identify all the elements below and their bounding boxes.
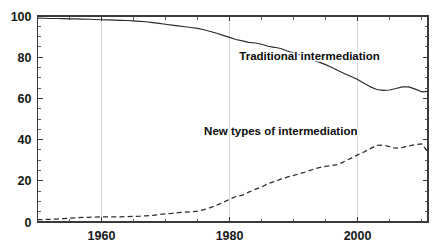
series-traditional-intermediation-label: Traditional intermediation: [239, 50, 380, 62]
chart-figure: 020406080100 196019802000 Traditional in…: [0, 0, 443, 250]
line-chart: 020406080100 196019802000 Traditional in…: [0, 0, 443, 250]
series-new-types-intermediation-label: New types of intermediation: [204, 125, 357, 137]
x-tick-label-2000: 2000: [344, 229, 372, 243]
y-tick-label-20: 20: [18, 174, 32, 188]
y-tick-label-60: 60: [18, 92, 32, 106]
y-tick-label-40: 40: [18, 133, 32, 147]
x-tick-label-1980: 1980: [216, 229, 244, 243]
x-tick-label-1960: 1960: [88, 229, 116, 243]
y-tick-label-100: 100: [11, 10, 32, 24]
y-tick-label-80: 80: [18, 51, 32, 65]
y-tick-label-0: 0: [25, 216, 32, 230]
